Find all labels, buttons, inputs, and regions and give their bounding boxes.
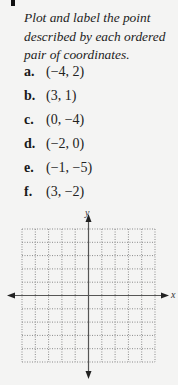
- item-value: (3, 1): [46, 88, 76, 103]
- exercise-prompt: Plot and label the point described by ea…: [24, 9, 174, 65]
- arrow-right-icon: [161, 293, 169, 299]
- item-label: c.: [24, 108, 46, 132]
- item-label: d.: [24, 132, 46, 156]
- y-axis-label: y: [85, 207, 89, 218]
- list-item: d.(−2, 0): [24, 132, 92, 156]
- list-item: a.(−4, 2): [24, 60, 92, 84]
- item-value: (0, −4): [46, 112, 84, 127]
- item-value: (3, −2): [46, 184, 84, 199]
- ordered-pair-list: a.(−4, 2) b.(3, 1) c.(0, −4) d.(−2, 0) e…: [24, 60, 92, 204]
- item-label: a.: [24, 60, 46, 84]
- x-axis-label: x: [171, 289, 175, 300]
- arrow-left-icon: [7, 293, 15, 299]
- item-label: b.: [24, 84, 46, 108]
- coordinate-grid: [0, 200, 178, 385]
- list-item: c.(0, −4): [24, 108, 92, 132]
- page-edge-mark: [11, 0, 15, 6]
- arrow-down-icon: [86, 371, 92, 379]
- list-item: e.(−1, −5): [24, 156, 92, 180]
- item-value: (−1, −5): [46, 160, 92, 175]
- list-item: b.(3, 1): [24, 84, 92, 108]
- item-value: (−4, 2): [46, 64, 84, 79]
- item-value: (−2, 0): [46, 136, 84, 151]
- item-label: e.: [24, 156, 46, 180]
